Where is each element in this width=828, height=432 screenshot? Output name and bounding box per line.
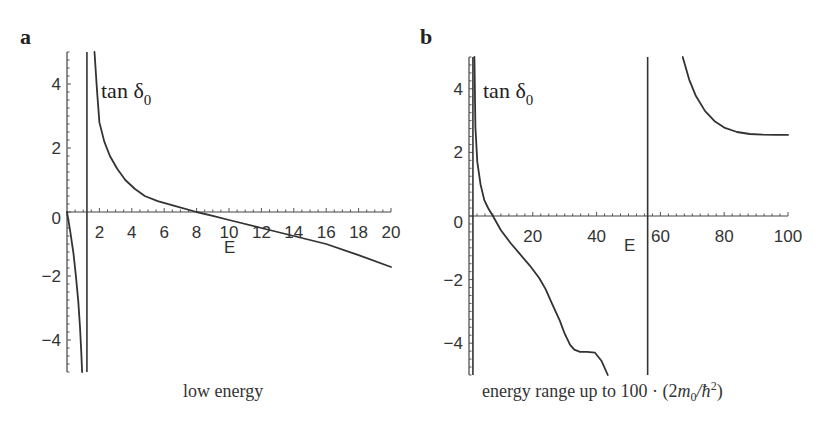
y-tick-label: 2	[52, 139, 61, 158]
y-tick-label: 2	[454, 143, 463, 162]
panel-letter-b: b	[420, 24, 432, 49]
x-tick-label: 100	[774, 227, 802, 246]
tan-delta-curve	[683, 57, 788, 135]
x-tick-label: 4	[127, 223, 136, 242]
x-tick-label: 16	[317, 223, 336, 242]
panel-letter-a: a	[20, 24, 31, 49]
x-tick-label: 6	[159, 223, 168, 242]
y-tick-label: −2	[444, 271, 463, 290]
panel-b-plot: b 20406080100420−2−4 tan δ0 E energy ran…	[420, 24, 802, 404]
panel-b-axes: 20406080100420−2−4	[444, 57, 803, 375]
panel-a-x-axis-label: E	[224, 238, 235, 257]
panel-a-axes: 2468101214161820420−2−4	[42, 52, 401, 372]
x-tick-label: 60	[651, 227, 670, 246]
y-tick-label: 0	[52, 209, 61, 228]
x-tick-label: 20	[523, 227, 542, 246]
x-tick-label: 80	[715, 227, 734, 246]
x-tick-label: 14	[284, 223, 303, 242]
x-tick-label: 18	[349, 223, 368, 242]
panel-a-plot: a 2468101214161820420−2−4 tan δ0 E low e…	[20, 24, 400, 401]
figure: a 2468101214161820420−2−4 tan δ0 E low e…	[0, 0, 828, 432]
y-tick-label: −4	[42, 331, 61, 350]
y-tick-label: −4	[444, 334, 463, 353]
panel-b-x-axis-label: E	[624, 236, 635, 255]
x-tick-label: 40	[587, 227, 606, 246]
panel-a-series-label: tan δ0	[101, 78, 151, 108]
x-tick-label: 8	[192, 223, 201, 242]
x-tick-label: 20	[382, 223, 401, 242]
x-tick-label: 2	[95, 223, 104, 242]
panel-b-series-label: tan δ0	[483, 78, 533, 108]
panel-a-caption: low energy	[183, 381, 263, 401]
y-tick-label: 0	[454, 213, 463, 232]
y-tick-label: 4	[52, 75, 61, 94]
y-tick-label: −2	[42, 267, 61, 286]
y-tick-label: 4	[454, 80, 463, 99]
panel-b-caption: energy range up to 100 · (2m0/ħ2)	[482, 379, 723, 404]
